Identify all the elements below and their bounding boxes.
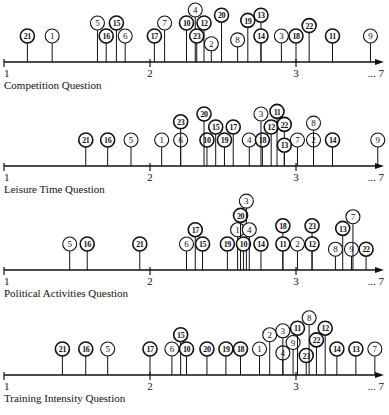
data-point: 11 — [326, 29, 340, 62]
point-label: 3 — [244, 196, 249, 206]
point-label: 17 — [146, 345, 154, 354]
data-point: 9 — [371, 133, 385, 166]
data-point: 7 — [368, 342, 382, 375]
data-point: 6 — [165, 342, 179, 375]
point-label: 15 — [177, 331, 185, 340]
data-point: 5 — [101, 342, 115, 375]
point-label: 18 — [237, 345, 245, 354]
point-label: 21 — [24, 32, 32, 41]
point-label: 3 — [279, 31, 284, 41]
charts-canvas: 123... 7Competition Question211516156177… — [0, 0, 389, 415]
point-label: 9 — [376, 135, 381, 145]
data-point: 18 — [289, 29, 303, 62]
data-point: 21 — [133, 237, 147, 270]
point-label: 11 — [329, 32, 336, 41]
point-label: 12 — [268, 123, 276, 132]
data-point: 2 — [290, 237, 304, 270]
data-point: 11 — [276, 237, 290, 270]
point-label: 19 — [244, 17, 252, 26]
point-label: 8 — [235, 35, 240, 45]
point-label: 10 — [240, 240, 248, 249]
point-label: 1 — [159, 135, 164, 145]
data-point: 1 — [45, 29, 59, 62]
chart-panel: 123... 7Competition Question211516156177… — [4, 3, 385, 91]
point-label: 20 — [218, 11, 226, 20]
data-point: 13 — [349, 342, 363, 375]
data-point: 17 — [147, 29, 161, 62]
data-point: 16 — [99, 29, 113, 62]
data-point: 18 — [234, 342, 248, 375]
data-point: 14 — [254, 29, 268, 62]
tick-label: 3 — [293, 275, 299, 287]
data-point: 14 — [254, 237, 268, 270]
data-point: 21 — [20, 29, 34, 62]
point-label: 20 — [200, 110, 208, 119]
point-label: 16 — [103, 32, 111, 41]
tick-label: 2 — [147, 67, 153, 79]
point-label: 16 — [104, 136, 112, 145]
point-label: 21 — [82, 136, 90, 145]
point-label: 10 — [183, 345, 191, 354]
point-label: 5 — [105, 344, 110, 354]
data-point: 6 — [180, 237, 194, 270]
point-label: 19 — [224, 240, 232, 249]
data-point: 16 — [80, 237, 94, 270]
data-point: 12 — [305, 237, 319, 270]
point-label: 1 — [257, 344, 262, 354]
axis-end-label: ... 7 — [368, 171, 385, 183]
point-label: 11 — [279, 240, 286, 249]
data-point: 21 — [55, 342, 69, 375]
point-label: 21 — [136, 240, 144, 249]
data-point: 22 — [302, 19, 316, 62]
point-label: 22 — [306, 22, 314, 31]
data-point: 14 — [330, 342, 344, 375]
data-point: 7 — [346, 210, 360, 270]
data-point: 10 — [236, 237, 250, 270]
axis-end-label: ... 7 — [368, 275, 385, 287]
point-label: 17 — [151, 32, 159, 41]
point-label: 14 — [257, 240, 265, 249]
point-label: 17 — [192, 226, 200, 235]
data-point: 7 — [290, 133, 304, 166]
axis-arrow-icon — [375, 163, 384, 169]
data-point: 11 — [270, 104, 284, 166]
tick-label: 2 — [147, 171, 153, 183]
point-label: 11 — [274, 108, 281, 117]
point-label: 23 — [177, 118, 185, 127]
data-point: 10 — [180, 342, 194, 375]
chart-panel: 123... 7Leisure Time Question21165162310… — [4, 104, 385, 195]
point-label: 18 — [292, 32, 300, 41]
data-point: 19 — [217, 133, 231, 166]
point-label: 22 — [362, 245, 370, 254]
point-label: 22 — [313, 336, 321, 345]
data-point: 21 — [79, 133, 93, 166]
chart-caption: Political Activities Question — [4, 287, 129, 299]
point-label: 14 — [257, 32, 265, 41]
data-point: 13 — [277, 138, 291, 166]
point-label: 20 — [237, 212, 245, 221]
data-point: 9 — [344, 242, 358, 270]
point-label: 15 — [113, 19, 121, 28]
point-label: 3 — [281, 326, 286, 336]
point-label: 18 — [279, 222, 287, 231]
point-label: 5 — [95, 18, 100, 28]
axis-end-label: ... 7 — [368, 380, 385, 392]
point-label: 15 — [212, 123, 220, 132]
data-point: 10 — [200, 133, 214, 166]
point-label: 14 — [329, 136, 337, 145]
data-point: 4 — [242, 133, 256, 166]
data-point: 5 — [63, 237, 77, 270]
figure: 123... 7Competition Question211516156177… — [0, 0, 389, 415]
point-label: 16 — [84, 240, 92, 249]
tick-label: 1 — [4, 380, 10, 392]
chart-caption: Leisure Time Question — [4, 183, 105, 195]
data-point: 9 — [363, 29, 377, 62]
point-label: 1 — [50, 31, 55, 41]
chart-panel: 123... 7Political Activities Question516… — [4, 194, 385, 299]
data-point: 16 — [79, 342, 93, 375]
data-point: 17 — [143, 342, 157, 375]
point-label: 23 — [193, 32, 201, 41]
point-label: 2 — [209, 39, 214, 49]
data-point: 6 — [118, 29, 132, 62]
point-label: 7 — [295, 135, 300, 145]
